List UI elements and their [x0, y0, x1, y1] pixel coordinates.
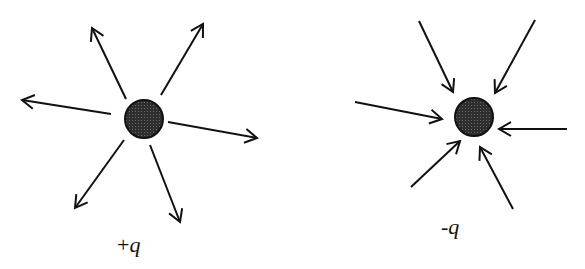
negative-charge-label: -q [441, 214, 459, 239]
sign-plus: + [117, 232, 129, 257]
field-line-arrow [419, 21, 453, 92]
field-line-arrow [168, 122, 257, 138]
symbol-q: q [129, 232, 140, 257]
field-line-arrow [355, 102, 442, 119]
symbol-q: q [448, 214, 459, 239]
negative-charge [455, 98, 493, 136]
field-line-arrow [411, 141, 460, 187]
sign-minus: - [441, 214, 448, 239]
field-line-arrow [92, 28, 126, 99]
field-line-arrow [495, 20, 535, 93]
field-line-arrow [22, 100, 111, 114]
electric-field-diagram: +q -q [0, 0, 585, 269]
field-line-arrow [480, 147, 513, 209]
negative-charge-group: -q [355, 20, 567, 239]
field-line-arrow [75, 140, 124, 208]
positive-charge-label: +q [117, 232, 140, 257]
positive-charge-group: +q [22, 24, 257, 257]
field-line-arrow [161, 24, 203, 95]
field-line-arrow [150, 145, 180, 222]
positive-charge [125, 100, 163, 138]
